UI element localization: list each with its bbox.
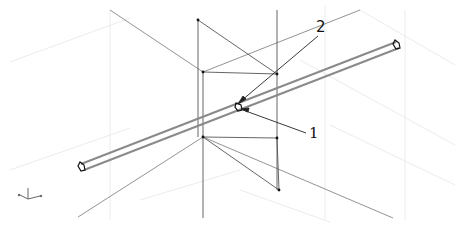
frame-bottom-back [203,137,279,190]
node [276,73,279,76]
guide-line-upper-left [110,10,203,72]
leader-line-2 [241,36,318,101]
axis-indicator-icon [18,188,42,199]
tube-end-cap-right [393,40,400,49]
frame-top-front [203,72,277,74]
arrowhead-icon [238,96,246,104]
arrowhead-icon [241,108,249,112]
frame-top-back [198,20,277,74]
node [278,189,281,192]
guide-line-upper-right [203,10,360,72]
node [202,71,205,74]
callout-label-2: 2 [316,20,326,35]
guide-line-lower-right [203,137,393,218]
node [276,137,279,140]
frame-bottom-front [203,137,277,138]
frame-nodes [197,19,281,192]
node [197,19,200,22]
node [202,136,205,139]
guide-lines [78,10,393,218]
callout-label-1: 1 [309,126,319,141]
diagram-canvas [0,0,457,225]
leader-line-1 [243,110,306,133]
tube [81,42,399,170]
